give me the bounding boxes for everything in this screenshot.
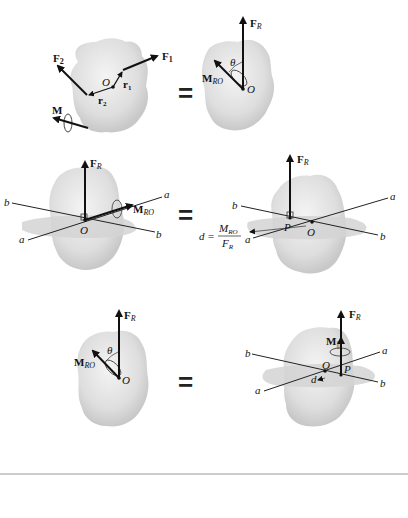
equals-sign-1: = <box>178 78 193 108</box>
label-a-left: a <box>255 384 261 396</box>
label-a-right: a <box>382 344 388 356</box>
panel-3-perpendicular-components: FR MRO O b b a a <box>4 157 170 270</box>
panel-5-resultant-at-o: FR θ MRO O <box>74 309 149 427</box>
label-fr: FR <box>297 153 309 167</box>
equals-sign-3: = <box>178 367 193 397</box>
equals-sign-2: = <box>178 200 193 230</box>
point-p <box>339 373 342 376</box>
label-b-left: b <box>245 347 251 359</box>
rigid-body <box>77 331 148 427</box>
label-b-left: b <box>232 199 238 211</box>
label-a-left: a <box>19 233 25 245</box>
origin-point <box>241 87 245 91</box>
cross-section-plane <box>22 215 136 238</box>
label-fr: FR <box>349 308 361 322</box>
formula-lhs: d = <box>199 230 215 242</box>
origin-point <box>117 376 121 380</box>
label-fr: FR <box>250 17 262 31</box>
label-m: M <box>52 104 63 116</box>
label-mro: MRO <box>133 203 154 217</box>
label-a-right: a <box>164 188 170 200</box>
formula-numerator: MRO <box>218 222 238 236</box>
label-theta: θ <box>230 56 236 68</box>
label-f2: F2 <box>53 52 64 66</box>
label-p: P <box>283 221 291 233</box>
label-a-left: a <box>245 233 251 245</box>
label-origin: O <box>247 83 255 95</box>
label-b-left: b <box>4 196 10 208</box>
point-p <box>288 216 291 219</box>
distance-formula: d = MRO FR <box>199 222 241 251</box>
label-fr: FR <box>124 309 136 323</box>
panel-4-force-moved-to-p: FR P O b b a a d = MRO FR <box>199 153 396 274</box>
wrench-reduction-diagram: F2 F1 O r1 r2 M = FR θ MRO O FR MRO O b … <box>0 0 408 518</box>
origin-point <box>310 220 314 224</box>
label-p: P <box>343 363 351 375</box>
panel-6-wrench: FR M|| O P d b b a a <box>245 308 388 427</box>
label-origin: O <box>80 224 88 236</box>
label-b-right: b <box>156 228 162 240</box>
panel-2-resultant-at-o: FR θ MRO O <box>202 17 274 130</box>
panel-1-force-system: F2 F1 O r1 r2 M <box>52 38 173 132</box>
label-fr: FR <box>90 157 102 171</box>
label-theta: θ <box>107 344 113 356</box>
origin-point <box>111 85 115 89</box>
label-d: d <box>311 373 317 385</box>
label-a-right: a <box>390 190 396 202</box>
label-origin: O <box>122 374 130 386</box>
formula-denominator: FR <box>221 237 234 251</box>
label-origin: O <box>102 76 110 88</box>
label-b-right: b <box>380 230 386 242</box>
label-b-right: b <box>380 377 386 389</box>
label-origin: O <box>307 226 315 238</box>
cross-section-plane <box>262 364 374 387</box>
origin-point <box>83 218 87 222</box>
label-f1: F1 <box>162 50 173 64</box>
label-origin: O <box>322 359 330 371</box>
